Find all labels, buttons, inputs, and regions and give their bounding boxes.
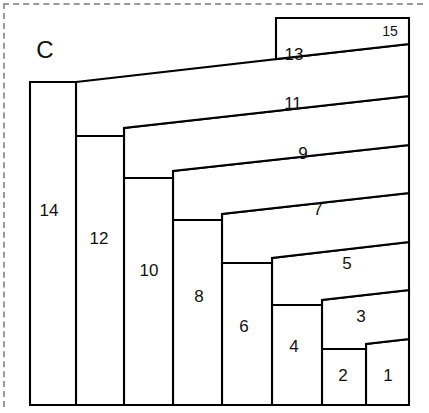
- pieces-layer: [30, 18, 409, 405]
- piece-label-12: 12: [90, 229, 109, 248]
- dissection-diagram: 123456789101112131415 C: [0, 0, 429, 413]
- piece-label-11: 11: [284, 94, 302, 113]
- piece-label-10: 10: [140, 261, 159, 280]
- piece-14[interactable]: [30, 82, 76, 405]
- figure-label-c: C: [36, 36, 53, 63]
- piece-label-2: 2: [338, 366, 347, 385]
- piece-12[interactable]: [76, 128, 124, 405]
- piece-label-6: 6: [239, 317, 248, 336]
- piece-label-8: 8: [194, 287, 203, 306]
- piece-label-4: 4: [289, 337, 298, 356]
- figure-container: 123456789101112131415 C: [0, 0, 429, 413]
- piece-label-1: 1: [383, 366, 392, 385]
- piece-label-9: 9: [298, 144, 307, 163]
- piece-label-13: 13: [285, 45, 304, 64]
- piece-label-14: 14: [40, 201, 59, 220]
- piece-10[interactable]: [124, 171, 173, 405]
- piece-8[interactable]: [173, 214, 222, 405]
- piece-label-5: 5: [342, 254, 351, 273]
- piece-label-3: 3: [356, 307, 365, 326]
- piece-label-7: 7: [313, 200, 322, 219]
- piece-label-15: 15: [382, 23, 398, 39]
